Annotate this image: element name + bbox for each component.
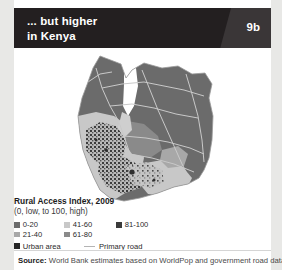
figure-badge-panel: 9b	[217, 8, 271, 48]
legend-title: Rural Access Index, 2009	[14, 196, 194, 207]
legend-label-41-60: 41-60	[73, 220, 92, 229]
source-note: Source: World Bank estimates based on Wo…	[18, 256, 270, 265]
legend-class-grid: 0-20 41-60 81-100 21-40 61-80	[14, 220, 194, 239]
legend-swatch-primary-road	[84, 246, 95, 247]
map-legend: Rural Access Index, 2009 (0, low, to 100…	[14, 196, 194, 251]
figure-header: ... but higher in Kenya 9b	[14, 8, 271, 48]
legend-swatch-urban-area	[14, 243, 20, 249]
kenya-choropleth-map[interactable]	[66, 54, 224, 206]
page-title: ... but higher in Kenya	[27, 14, 202, 43]
legend-subtitle: (0, low, to 100, high)	[14, 207, 194, 218]
source-text: World Bank estimates based on WorldPop a…	[47, 256, 282, 265]
legend-swatch-41-60	[64, 222, 70, 228]
legend-label-0-20: 0-20	[23, 220, 38, 229]
legend-swatch-21-40	[14, 232, 20, 238]
source-label: Source:	[18, 256, 47, 265]
legend-item-81-100: 81-100	[116, 220, 194, 229]
figure-number-badge: 9b	[247, 21, 260, 33]
legend-item-61-80: 61-80	[64, 230, 116, 239]
legend-item-0-20: 0-20	[14, 220, 64, 229]
legend-item-41-60: 41-60	[64, 220, 116, 229]
legend-item-21-40: 21-40	[14, 230, 64, 239]
legend-swatch-0-20	[14, 222, 20, 228]
legend-label-81-100: 81-100	[125, 220, 149, 229]
legend-label-61-80: 61-80	[73, 230, 92, 239]
source-divider	[14, 250, 271, 251]
legend-label-21-40: 21-40	[23, 230, 42, 239]
legend-swatch-81-100	[116, 222, 122, 228]
legend-swatch-61-80	[64, 232, 70, 238]
